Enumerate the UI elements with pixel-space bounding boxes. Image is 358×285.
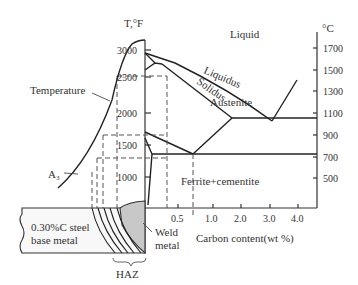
weld-metal-label-line1: Weld	[155, 226, 178, 238]
liquid-region-label: Liquid	[230, 28, 260, 40]
left-tick-2000: 2000	[117, 108, 137, 119]
right-tick-1500: 1500	[323, 65, 343, 76]
x-tick-2.0: 2.0	[234, 213, 247, 224]
a3-arrow	[64, 173, 78, 174]
weld-metal-label-line2: metal	[155, 239, 179, 251]
a3-label: A₃	[48, 168, 60, 180]
x-tick-3.0: 3.0	[263, 213, 276, 224]
liquidus-steep-line	[272, 80, 297, 121]
right-tick-1300: 1300	[323, 86, 343, 97]
right-tick-1100: 1100	[323, 108, 343, 119]
haz-label: HAZ	[116, 268, 139, 280]
diagram: T,°F °C 3000 2500 2000 1500 1000 1700 15…	[0, 0, 358, 285]
left-tick-2500: 2500	[117, 72, 137, 83]
base-metal-label-line1: 0.30%C steel	[31, 221, 90, 233]
right-tick-1700: 1700	[323, 43, 343, 54]
right-tick-500: 500	[323, 173, 338, 184]
temperature-label: Temperature	[30, 84, 86, 96]
a1-left-line	[145, 138, 152, 205]
x-tick-4.0: 4.0	[291, 213, 304, 224]
haz-brace	[113, 258, 146, 266]
dashed-projections	[92, 76, 193, 215]
right-axis-unit: °C	[322, 22, 334, 34]
x-axis-label: Carbon content(wt %)	[196, 232, 294, 245]
right-tick-900: 900	[323, 130, 338, 141]
left-axis-unit: T,°F	[124, 17, 143, 29]
left-tick-1500: 1500	[117, 140, 137, 151]
acm-line	[193, 118, 232, 154]
left-tick-3000: 3000	[117, 45, 137, 56]
temperature-arrow	[92, 93, 110, 101]
left-tick-1000: 1000	[117, 172, 137, 183]
ferrite-cementite-region-label: Ferrite+cementite	[181, 175, 259, 187]
x-tick-1.0: 1.0	[205, 213, 218, 224]
right-tick-700: 700	[323, 152, 338, 163]
x-tick-0.5: 0.5	[171, 213, 184, 224]
base-metal-label-line2: base metal	[31, 234, 78, 246]
